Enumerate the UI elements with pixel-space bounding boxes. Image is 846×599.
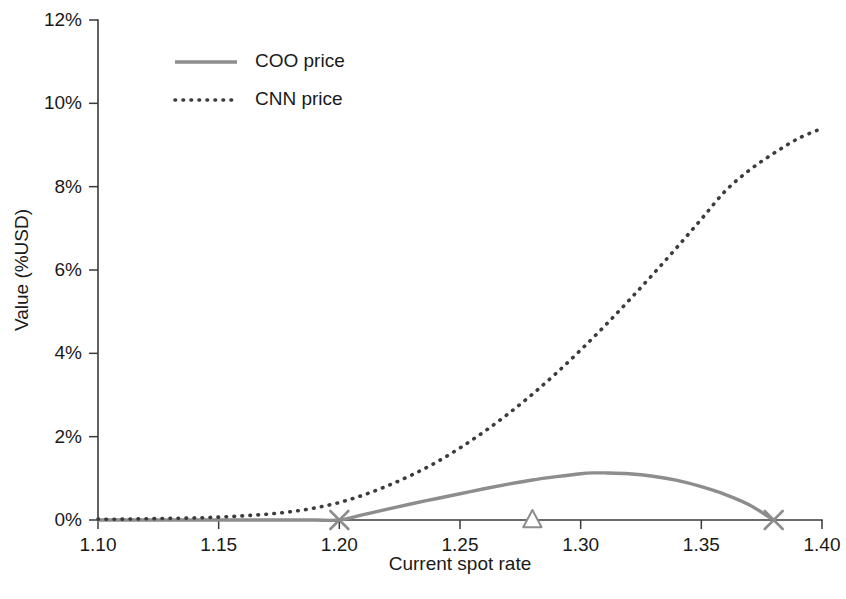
x-tick-label: 1.35 bbox=[683, 534, 720, 555]
y-tick-label: 4% bbox=[55, 342, 83, 363]
y-tick-label: 8% bbox=[55, 176, 83, 197]
y-tick-label: 12% bbox=[44, 9, 82, 30]
y-tick-label: 0% bbox=[55, 509, 83, 530]
y-tick-label: 10% bbox=[44, 92, 82, 113]
legend-label-cnn: CNN price bbox=[255, 88, 343, 109]
chart-container: 0%2%4%6%8%10%12% Value (%USD) 1.101.151.… bbox=[0, 0, 846, 599]
legend-label-coo: COO price bbox=[255, 50, 345, 71]
series-line-cnn bbox=[98, 128, 822, 519]
y-tick-group: 0%2%4%6%8%10%12% bbox=[44, 9, 98, 530]
y-tick-label: 2% bbox=[55, 426, 83, 447]
series-group bbox=[98, 128, 822, 520]
x-tick-group: 1.101.151.201.251.301.351.40 bbox=[80, 520, 841, 555]
marker-forward-rate bbox=[523, 510, 541, 527]
y-axis: 0%2%4%6%8%10%12% Value (%USD) bbox=[11, 9, 98, 530]
x-tick-label: 1.30 bbox=[562, 534, 599, 555]
x-tick-label: 1.25 bbox=[442, 534, 479, 555]
x-tick-label: 1.40 bbox=[804, 534, 841, 555]
chart-legend: COO priceCNN price bbox=[175, 50, 345, 109]
y-tick-label: 6% bbox=[55, 259, 83, 280]
x-tick-label: 1.20 bbox=[321, 534, 358, 555]
series-line-coo bbox=[98, 473, 774, 521]
x-tick-label: 1.10 bbox=[80, 534, 117, 555]
x-axis: 1.101.151.201.251.301.351.40 Current spo… bbox=[80, 520, 841, 574]
line-chart: 0%2%4%6%8%10%12% Value (%USD) 1.101.151.… bbox=[0, 0, 846, 599]
x-axis-title: Current spot rate bbox=[389, 553, 532, 574]
y-axis-title: Value (%USD) bbox=[11, 209, 32, 331]
x-tick-label: 1.15 bbox=[200, 534, 237, 555]
